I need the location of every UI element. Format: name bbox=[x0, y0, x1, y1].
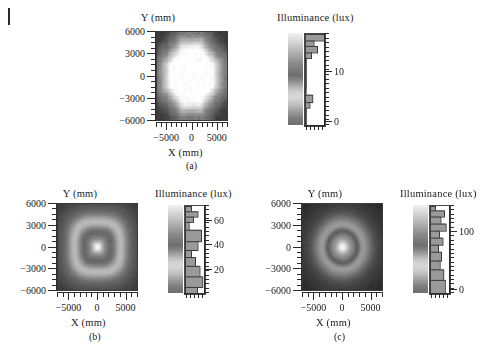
colorbar-minor-tick bbox=[324, 79, 329, 80]
y-axis-tick-label: 0 bbox=[140, 70, 145, 81]
x-axis-tick-label: 0 bbox=[340, 302, 345, 313]
x-axis-tick-label: 0 bbox=[95, 302, 100, 313]
y-axis-minor-tick bbox=[52, 274, 57, 275]
y-axis-tick-label: −3000 bbox=[20, 263, 46, 274]
x-axis-tick-label: −5000 bbox=[153, 132, 179, 143]
y-axis-major-tick bbox=[48, 268, 57, 269]
y-axis-minor-tick bbox=[151, 87, 156, 88]
y-axis-minor-tick bbox=[297, 241, 302, 242]
colorbar-major-tick bbox=[324, 121, 332, 122]
x-axis-minor-tick bbox=[171, 122, 172, 127]
y-axis-tick-label: 3000 bbox=[271, 219, 291, 230]
panel-c-y-axis: 600030000−3000−6000 bbox=[252, 203, 302, 291]
colorbar-minor-tick bbox=[324, 115, 329, 116]
y-axis-minor-tick bbox=[52, 219, 57, 220]
panel-b-heatmap bbox=[57, 203, 138, 291]
y-axis-minor-tick bbox=[297, 236, 302, 237]
x-axis-tick-label: −5000 bbox=[301, 302, 327, 313]
x-axis-minor-tick bbox=[114, 292, 115, 297]
y-axis-tick-label: 6000 bbox=[125, 26, 145, 37]
x-axis-minor-tick bbox=[74, 292, 75, 297]
x-axis-minor-tick bbox=[207, 122, 208, 127]
colorbar-minor-tick bbox=[449, 270, 454, 271]
colorbar-foot-tick bbox=[190, 293, 191, 298]
y-axis-minor-tick bbox=[297, 263, 302, 264]
colorbar-minor-tick bbox=[204, 262, 209, 263]
y-axis-minor-tick bbox=[297, 230, 302, 231]
colorbar-minor-tick bbox=[449, 249, 454, 250]
x-axis-major-tick bbox=[166, 122, 167, 130]
panel-b-heatmap-wrap bbox=[57, 203, 138, 291]
x-axis-minor-tick bbox=[365, 292, 366, 297]
colorbar-minor-tick bbox=[204, 205, 209, 206]
panel-c-x-axis: −500005000 bbox=[302, 292, 383, 316]
colorbar-major-tick bbox=[449, 231, 457, 232]
panel-a-y-axis-title: Y (mm) bbox=[128, 12, 188, 23]
y-axis-tick-label: 3000 bbox=[125, 48, 145, 59]
y-axis-minor-tick bbox=[52, 236, 57, 237]
y-axis-tick-label: −6000 bbox=[119, 115, 145, 126]
x-axis-minor-tick bbox=[308, 292, 309, 297]
y-axis-minor-tick bbox=[151, 64, 156, 65]
x-axis-minor-tick bbox=[161, 122, 162, 127]
panel-c-colorbar bbox=[413, 205, 427, 293]
colorbar-minor-tick bbox=[204, 283, 209, 284]
x-axis-tick-label: 5000 bbox=[207, 132, 227, 143]
y-axis-tick-label: 3000 bbox=[26, 219, 46, 230]
y-axis-minor-tick bbox=[52, 208, 57, 209]
y-axis-minor-tick bbox=[52, 279, 57, 280]
colorbar-minor-tick bbox=[449, 262, 454, 263]
x-axis-tick-label: 0 bbox=[189, 132, 194, 143]
y-axis-minor-tick bbox=[52, 252, 57, 253]
colorbar-minor-tick bbox=[204, 253, 209, 254]
y-axis-minor-tick bbox=[151, 59, 156, 60]
y-axis-minor-tick bbox=[52, 214, 57, 215]
colorbar-minor-tick bbox=[324, 110, 329, 111]
colorbar-foot-tick bbox=[322, 125, 323, 130]
y-axis-major-tick bbox=[293, 290, 302, 291]
colorbar-tick-label: 20 bbox=[214, 263, 224, 274]
colorbar-minor-tick bbox=[324, 88, 329, 89]
y-axis-minor-tick bbox=[151, 103, 156, 104]
colorbar-minor-tick bbox=[324, 42, 329, 43]
x-axis-minor-tick bbox=[103, 292, 104, 297]
y-axis-major-tick bbox=[147, 98, 156, 99]
colorbar-tick-label: 60 bbox=[214, 214, 224, 225]
panel-b: Y (mm) 600030000−3000−6000 −500005000 X … bbox=[0, 178, 245, 347]
panel-a-heatmap bbox=[156, 31, 228, 121]
x-axis-minor-tick bbox=[325, 292, 326, 297]
y-axis-tick-label: 0 bbox=[41, 241, 46, 252]
y-axis-minor-tick bbox=[297, 214, 302, 215]
y-axis-major-tick bbox=[48, 247, 57, 248]
x-axis-major-tick bbox=[313, 292, 314, 300]
y-axis-minor-tick bbox=[52, 263, 57, 264]
y-axis-major-tick bbox=[48, 225, 57, 226]
colorbar-minor-tick bbox=[449, 218, 454, 219]
colorbar-foot-tick bbox=[447, 293, 448, 298]
x-axis-minor-tick bbox=[176, 122, 177, 127]
y-axis-minor-tick bbox=[151, 114, 156, 115]
colorbar-minor-tick bbox=[324, 92, 329, 93]
colorbar-minor-tick bbox=[449, 275, 454, 276]
y-axis-minor-tick bbox=[297, 279, 302, 280]
x-axis-minor-tick bbox=[80, 292, 81, 297]
y-axis-minor-tick bbox=[297, 208, 302, 209]
colorbar-minor-tick bbox=[324, 106, 329, 107]
y-axis-minor-tick bbox=[151, 48, 156, 49]
panel-a-x-axis-title: X (mm) bbox=[168, 147, 203, 158]
panel-b-caption: (b) bbox=[89, 331, 101, 342]
x-axis-tick-label: 5000 bbox=[361, 302, 381, 313]
colorbar-minor-tick bbox=[324, 101, 329, 102]
figure-page: Y (mm) 600030000−3000−6000 −500005000 X … bbox=[0, 0, 491, 347]
x-axis-tick-label: −5000 bbox=[56, 302, 82, 313]
y-axis-tick-label: 6000 bbox=[26, 198, 46, 209]
x-axis-major-tick bbox=[342, 292, 343, 300]
colorbar-minor-tick bbox=[324, 56, 329, 57]
colorbar-foot-tick bbox=[186, 293, 187, 298]
y-axis-major-tick bbox=[147, 31, 156, 32]
colorbar-minor-tick bbox=[204, 266, 209, 267]
colorbar-foot-tick bbox=[443, 293, 444, 298]
panel-b-colorbar-title: Illuminance (lux) bbox=[155, 188, 232, 199]
colorbar-minor-tick bbox=[324, 51, 329, 52]
x-axis-minor-tick bbox=[108, 292, 109, 297]
